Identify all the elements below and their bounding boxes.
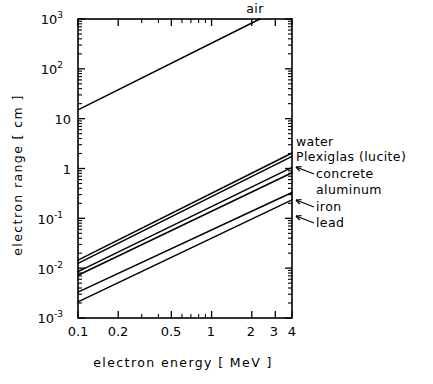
- curve-water: [78, 153, 292, 260]
- curve-iron: [78, 192, 292, 292]
- y-tick-label-0.001: 10-3: [37, 309, 63, 326]
- series-label-aluminum: aluminum: [316, 182, 382, 197]
- y-axis-title: electron range [ cm ]: [10, 94, 25, 256]
- curve-aluminum: [78, 173, 292, 275]
- y-tick-labels: 103 102 10 1 10-1 10-2 10-3: [37, 10, 71, 326]
- x-tick-labels: 0.1 0.2 0.5 1 2 3 4: [68, 324, 296, 339]
- y-tick-label-0.1: 10-1: [37, 210, 63, 227]
- x-tick-label-4: 2: [247, 324, 255, 339]
- x-axis-title: electron energy [ MeV ]: [93, 355, 273, 370]
- x-tick-label-1: 0.2: [108, 324, 129, 339]
- leader-lead: [296, 216, 314, 223]
- x-tick-label-3: 1: [207, 324, 215, 339]
- curve-concrete: [78, 167, 292, 271]
- series-label-iron: iron: [316, 199, 342, 214]
- curve-lead: [78, 200, 292, 302]
- leader-concrete: [296, 167, 314, 174]
- series-label-plexiglas: Plexiglas (lucite): [296, 149, 406, 164]
- curve-air: [78, 19, 260, 110]
- y-tick-label-100: 102: [41, 60, 63, 77]
- data-curves: [78, 19, 292, 302]
- x-tick-label-5: 3: [270, 324, 278, 339]
- label-leaders: [296, 167, 314, 223]
- series-label-air: air: [246, 1, 264, 16]
- series-label-concrete: concrete: [316, 166, 374, 181]
- x-tick-label-6: 4: [288, 324, 296, 339]
- leader-iron: [296, 200, 314, 207]
- y-tick-label-10: 10: [54, 112, 71, 127]
- series-label-water: water: [296, 134, 334, 149]
- y-tick-label-1: 1: [63, 162, 71, 177]
- y-tick-label-0.01: 10-2: [37, 260, 63, 277]
- chart-svg: 0.1 0.2 0.5 1 2 3 4 103 102 10 1 10-1 10…: [0, 0, 433, 384]
- x-tick-label-2: 0.5: [161, 324, 182, 339]
- x-tick-label-0: 0.1: [68, 324, 89, 339]
- curve-plexiglas: [78, 156, 292, 263]
- electron-range-figure: 0.1 0.2 0.5 1 2 3 4 103 102 10 1 10-1 10…: [0, 0, 433, 384]
- y-tick-label-1000: 103: [41, 10, 63, 27]
- series-label-lead: lead: [316, 215, 344, 230]
